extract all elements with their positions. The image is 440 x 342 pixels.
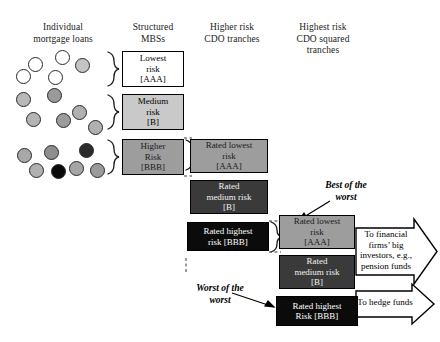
box-text-line: medium risk [193, 192, 265, 203]
mbs-medium-risk-label: Mediumrisk[B] [125, 96, 181, 128]
box-text-line: risk [125, 64, 181, 75]
annotation-worst-of-the-worst: Worst of the worst [178, 283, 262, 306]
annotation-line2: worst [178, 295, 262, 307]
box-text-line: [AAA] [282, 237, 352, 248]
annotation-line2: worst [306, 192, 386, 204]
cdo2-rated-medium-risk-label: Ratedmedium risk[B] [282, 256, 352, 288]
curly-brace-icon [108, 52, 119, 86]
cdo2-rated-highest-risk[interactable]: Rated highestRisk [BBB] [276, 296, 358, 326]
box-text-line: [BBB] [125, 162, 181, 173]
cdo-rated-highest-risk[interactable]: Rated highestrisk [BBB] [187, 222, 269, 251]
box-text-line: Risk [BBB] [279, 311, 355, 322]
arrow-text-line: To hedge funds [356, 297, 414, 308]
box-text-line: [AAA] [125, 74, 181, 85]
cdo2-rated-lowest-risk-label: Rated lowestrisk[AAA] [282, 216, 352, 248]
box-text-line: Rated [193, 181, 265, 192]
mbs-higher-risk-label: HigherRisk[BBB] [125, 141, 181, 173]
cdo-rated-medium-risk-label: Ratedmedium risk[B] [193, 181, 265, 213]
cdo2-rated-lowest-risk[interactable]: Rated lowestrisk[AAA] [279, 215, 355, 249]
arrow-label-to-financial-firms: To financialfirms’ biginvestors, e.g.,pe… [356, 229, 416, 271]
curly-brace-icon [108, 140, 119, 174]
box-text-line: risk [193, 151, 265, 162]
mbs-lowest-risk[interactable]: Lowestrisk[AAA] [122, 51, 184, 87]
mbs-medium-risk[interactable]: Mediumrisk[B] [122, 94, 184, 130]
arrow-text-line: To financial [356, 229, 416, 240]
cdo-rated-medium-risk[interactable]: Ratedmedium risk[B] [190, 180, 268, 214]
arrow-text-line: pension funds [356, 261, 416, 272]
cdo-rated-highest-risk-label: Rated highestrisk [BBB] [190, 226, 266, 247]
box-text-line: medium risk [282, 267, 352, 278]
box-text-line: Rated lowest [193, 140, 265, 151]
box-text-line: [B] [125, 117, 181, 128]
curly-brace-icon [108, 95, 119, 129]
cdo2-rated-medium-risk[interactable]: Ratedmedium risk[B] [279, 255, 355, 289]
box-text-line: [AAA] [193, 161, 265, 172]
box-text-line: Medium [125, 96, 181, 107]
annotation-line1: Worst of the [178, 283, 262, 295]
arrow-text-line: investors, e.g., [356, 250, 416, 261]
box-text-line: risk [125, 107, 181, 118]
arrow-label-to-hedge-funds: To hedge funds [356, 297, 414, 308]
box-text-line: Rated highest [279, 301, 355, 312]
annotation-best-of-the-worst: Best of the worst [306, 180, 386, 203]
mbs-lowest-risk-label: Lowestrisk[AAA] [125, 53, 181, 85]
cdo-rated-lowest-risk-label: Rated lowestrisk[AAA] [193, 140, 265, 172]
box-text-line: risk [282, 227, 352, 238]
box-text-line: Rated highest [190, 226, 266, 237]
box-text-line: risk [BBB] [190, 237, 266, 248]
box-text-line: Rated [282, 256, 352, 267]
box-text-line: Risk [125, 152, 181, 163]
box-text-line: Lowest [125, 53, 181, 64]
annotation-line1: Best of the [306, 180, 386, 192]
box-text-line: [B] [193, 202, 265, 213]
box-text-line: Rated lowest [282, 216, 352, 227]
arrow-text-line: firms’ big [356, 240, 416, 251]
cdo2-rated-highest-risk-label: Rated highestRisk [BBB] [279, 301, 355, 322]
box-text-line: [B] [282, 277, 352, 288]
cdo-rated-lowest-risk[interactable]: Rated lowestrisk[AAA] [190, 139, 268, 173]
mbs-higher-risk[interactable]: HigherRisk[BBB] [122, 139, 184, 175]
diagram-canvas: Individual mortgage loans Structured MBS… [0, 0, 440, 342]
pointer-arrow-icon [265, 301, 274, 307]
box-text-line: Higher [125, 141, 181, 152]
